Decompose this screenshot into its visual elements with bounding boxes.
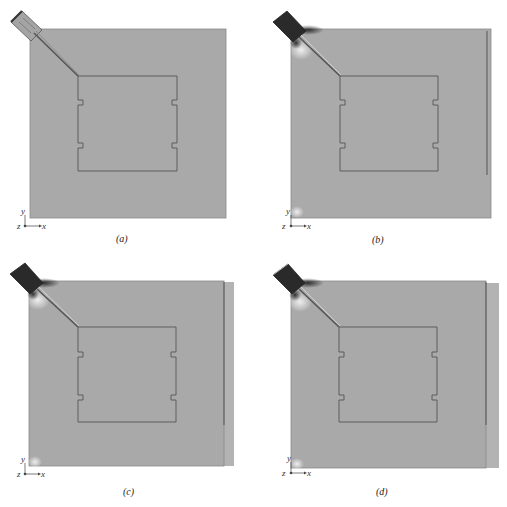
axis-y-label: y — [20, 206, 25, 216]
axis-y-label: y — [285, 206, 290, 216]
panel-b: y z x — [273, 11, 491, 231]
caption-b: (b) — [372, 234, 384, 245]
axis-x-label: x — [40, 469, 45, 479]
axis-x-label: x — [41, 221, 46, 231]
antenna-figure: y z x y z x — [0, 0, 507, 507]
axis-z-label: z — [281, 221, 286, 231]
axis-y-label: y — [286, 453, 291, 463]
panel-c: y z x — [10, 263, 234, 479]
axis-x-label: x — [306, 221, 311, 231]
caption-d: (d) — [376, 486, 388, 497]
caption-a: (a) — [116, 233, 128, 244]
axis-z-label: z — [16, 221, 21, 231]
axis-y-label: y — [20, 454, 25, 464]
axis-z-label: z — [16, 469, 21, 479]
axis-z-label: z — [281, 468, 286, 478]
panel-a: y z x — [11, 11, 226, 231]
caption-c: (c) — [123, 486, 134, 497]
axis-x-label: x — [306, 468, 311, 478]
panel-d: y z x — [273, 264, 499, 478]
